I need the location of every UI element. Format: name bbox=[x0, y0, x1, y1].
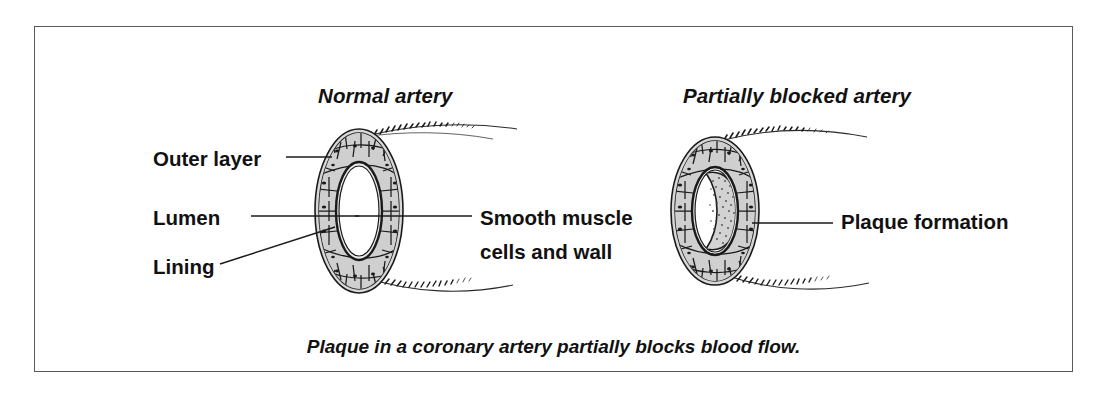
vessel-tail-upper bbox=[363, 122, 517, 139]
panel-title-normal-artery: Normal artery bbox=[318, 84, 453, 108]
label-lumen: Lumen bbox=[153, 201, 220, 235]
figure-frame: Normal artery Partially blocked artery O… bbox=[34, 26, 1073, 372]
figure-caption: Plaque in a coronary artery partially bl… bbox=[35, 336, 1072, 358]
vessel-tail-lower bbox=[367, 276, 513, 291]
vessel-tail-upper bbox=[719, 126, 867, 141]
label-outer-layer: Outer layer bbox=[153, 142, 261, 176]
lumen-shape bbox=[339, 166, 379, 256]
label-lining: Lining bbox=[153, 250, 214, 284]
label-smooth-muscle-cells-and-wall: Smooth muscle cells and wall bbox=[480, 201, 670, 269]
panel-title-partially-blocked-artery: Partially blocked artery bbox=[683, 84, 911, 108]
label-plaque-formation: Plaque formation bbox=[841, 205, 1021, 239]
vessel-tail-lower bbox=[725, 274, 869, 289]
